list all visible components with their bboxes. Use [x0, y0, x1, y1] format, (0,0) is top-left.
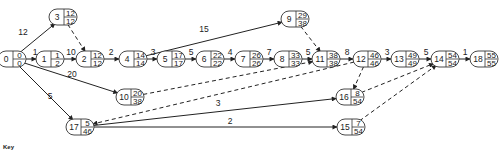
node-id: 7 — [241, 54, 246, 64]
dummy-activity-arrow — [360, 65, 437, 120]
node-3: 31212 — [49, 9, 77, 27]
node-id: 6 — [202, 54, 207, 64]
edge-duration-label: 2 — [228, 116, 233, 126]
latest-time: 46 — [83, 127, 92, 136]
node-0: 000 — [0, 51, 26, 69]
edge-2-4: 2 — [104, 47, 119, 59]
dummy-activity-arrow — [301, 26, 321, 51]
latest-time: 2 — [55, 59, 60, 68]
edge-duration-label: 3 — [151, 47, 156, 57]
node-id: 12 — [356, 54, 366, 64]
node-id: 11 — [316, 54, 325, 64]
edge-8-11: 5 — [302, 47, 312, 59]
edge-duration-label: 8 — [345, 47, 350, 57]
edge-duration-label: 12 — [18, 27, 28, 37]
node-16: 16854 — [336, 89, 364, 107]
edge-13-14: 5 — [419, 47, 431, 59]
edge-duration-label: 2 — [109, 47, 114, 57]
edge-duration-label: 5 — [424, 47, 429, 57]
latest-time: 14 — [136, 59, 145, 68]
node-id: 5 — [163, 54, 168, 64]
latest-time: 38 — [298, 19, 307, 28]
edge-14-18: 1 — [459, 47, 470, 59]
latest-time: 38 — [329, 59, 338, 68]
edge-6-7: 4 — [224, 47, 235, 59]
node-id: 2 — [82, 54, 87, 64]
node-8: 83333 — [274, 51, 302, 69]
node-id: 18 — [473, 54, 483, 64]
latest-time: 38 — [133, 97, 142, 106]
latest-time: 54 — [354, 127, 363, 136]
edge-15-14 — [360, 65, 437, 120]
node-5: 51717 — [157, 51, 185, 69]
node-17: 17546 — [66, 119, 94, 137]
edge-9-11 — [301, 26, 321, 51]
edge-duration-label: 1 — [463, 47, 468, 57]
edge-duration-label: 15 — [199, 24, 209, 34]
edge-7-8: 7 — [263, 47, 274, 59]
node-id: 10 — [119, 92, 129, 102]
node-id: 0 — [4, 54, 9, 64]
latest-time: 0 — [17, 59, 22, 68]
edge-1-2: 10 — [64, 47, 76, 59]
node-2: 21212 — [76, 51, 104, 69]
node-12: 124646 — [353, 51, 381, 69]
latest-time: 49 — [408, 59, 417, 68]
node-15: 15754 — [337, 119, 365, 137]
edge-0-17: 5 — [19, 66, 73, 120]
node-id: 13 — [394, 54, 404, 64]
latest-time: 22 — [213, 59, 222, 68]
edge-duration-label: 5 — [48, 91, 53, 101]
latest-time: 46 — [370, 59, 379, 68]
node-14: 145454 — [431, 51, 459, 69]
edge-0-10: 20 — [24, 63, 118, 93]
edge-duration-label: 10 — [66, 47, 76, 57]
activity-network-diagram: 1212051023155475835132 00011221212312124… — [0, 0, 501, 154]
node-id: 1 — [42, 54, 47, 64]
dummy-activity-arrow — [353, 67, 363, 89]
edge-duration-label: 20 — [67, 69, 77, 79]
node-id: 15 — [340, 122, 350, 132]
node-id: 3 — [55, 12, 60, 22]
node-18: 185555 — [470, 51, 498, 69]
node-10: 102038 — [116, 89, 144, 107]
edge-duration-label: 5 — [306, 47, 311, 57]
node-id: 4 — [125, 54, 130, 64]
latest-time: 12 — [93, 59, 102, 68]
node-7: 72626 — [235, 51, 263, 69]
node-9: 92938 — [281, 11, 309, 29]
latest-time: 33 — [291, 59, 300, 68]
edge-5-6: 5 — [185, 47, 196, 59]
latest-time: 12 — [66, 17, 75, 26]
latest-time: 17 — [174, 59, 183, 68]
node-id: 9 — [287, 14, 292, 24]
node-11: 113838 — [312, 51, 340, 69]
edge-duration-label: 5 — [189, 47, 194, 57]
edges-layer: 1212051023155475835132 — [18, 22, 470, 127]
edge-duration-label: 4 — [228, 47, 233, 57]
edge-duration-label: 7 — [267, 47, 272, 57]
node-id: 8 — [280, 54, 285, 64]
edge-duration-label: 3 — [216, 98, 221, 108]
node-4: 41414 — [119, 51, 147, 69]
node-6: 62222 — [196, 51, 224, 69]
activity-arrow — [19, 66, 73, 120]
latest-time: 54 — [448, 59, 457, 68]
latest-time: 26 — [252, 59, 261, 68]
latest-time: 55 — [487, 59, 496, 68]
key-label: Key — [3, 144, 14, 150]
node-id: 17 — [69, 122, 79, 132]
latest-time: 54 — [353, 97, 362, 106]
node-id: 14 — [434, 54, 444, 64]
edge-11-12: 8 — [340, 47, 353, 59]
edge-duration-label: 3 — [385, 47, 390, 57]
node-1: 112 — [36, 51, 64, 69]
node-13: 134949 — [391, 51, 419, 69]
edge-12-16 — [353, 67, 363, 89]
node-id: 16 — [339, 92, 349, 102]
edge-12-13: 3 — [381, 47, 391, 59]
